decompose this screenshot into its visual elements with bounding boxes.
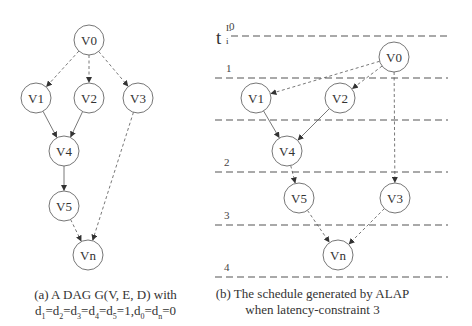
caption-text: =d [45,303,59,318]
axis-t-symbol: t [216,27,222,48]
node-label: V5 [291,191,307,206]
level-label-3: 3 [224,209,230,221]
node-label: V1 [28,91,44,106]
a-edge-v2-v4 [71,112,83,137]
b-edge-v0-v2 [352,66,382,89]
panel-b-nodes: V0V1V2V4V5V3Vn [241,42,410,270]
caption-text: =1,d [117,303,141,318]
a-edge-v0-v1 [46,51,78,86]
node-label: Vn [330,248,346,263]
diagram-canvas: V0V1V2V3V4V5Vn t L i 01234 V0V1V2V4V5V3V… [0,0,472,326]
node-label: V4 [56,144,72,159]
a-edge-v3-vn [93,112,134,240]
caption-b: (b) The schedule generated by ALAP when … [205,286,420,318]
level-label-1: 1 [226,62,232,74]
schedule-levels: 01234 [215,20,448,277]
b-edge-v0-v3 [394,72,395,183]
a-node-v2: V2 [74,83,104,113]
a-node-v3: V3 [123,83,153,113]
b-node-v4: V4 [272,136,302,166]
a-edge-v0-v3 [99,51,128,86]
caption-text: =d [144,303,158,318]
b-node-v3: V3 [380,183,410,213]
b-edge-v1-v4 [264,111,280,138]
node-label: V4 [279,144,295,159]
b-node-v1: V1 [241,83,271,113]
b-node-v2: V2 [325,83,355,113]
a-edge-v5-vn [71,219,82,241]
node-label: V0 [81,33,97,48]
caption-a: (a) A DAG G(V, E, D) with d1=d2=d3=d4=d5… [18,287,193,325]
caption-a-line1: (a) A DAG G(V, E, D) with [18,287,193,303]
level-label-4: 4 [224,261,230,273]
b-node-v5: V5 [284,183,314,213]
b-edge-v5-vn [307,210,329,242]
axis-subscript: i [226,36,229,46]
a-edge-v1-v4 [43,111,57,137]
b-node-vn: Vn [323,240,353,270]
b-edge-v2-v4 [298,109,329,140]
node-label: V2 [332,91,348,106]
panel-a-dag: V0V1V2V3V4V5Vn [21,25,153,270]
node-label: Vn [80,248,96,263]
a-node-v0: V0 [74,25,104,55]
a-node-v5: V5 [49,191,79,221]
panel-b-schedule: t L i 01234 V0V1V2V4V5V3Vn [215,20,448,277]
b-edge-v3-vn [349,209,384,244]
level-label-2: 2 [224,156,230,168]
caption-b-line1: (b) The schedule generated by ALAP [205,286,420,302]
caption-text: =d [63,303,77,318]
node-label: V1 [248,91,264,106]
caption-text: =0 [162,303,176,318]
a-node-vn: Vn [73,240,103,270]
node-label: V5 [56,199,72,214]
b-node-v0: V0 [379,42,409,72]
node-label: V0 [386,50,402,65]
caption-b-line2: when latency-constraint 3 [205,302,420,318]
panel-a-nodes: V0V1V2V3V4V5Vn [21,25,153,270]
caption-text: =d [81,303,95,318]
level-label-0: 0 [229,20,235,32]
a-node-v1: V1 [21,83,51,113]
b-edge-v4-v5 [291,166,295,183]
caption-text: =d [99,303,113,318]
node-label: V3 [387,191,403,206]
a-node-v4: V4 [49,136,79,166]
node-label: V3 [130,91,146,106]
caption-a-line2: d1=d2=d3=d4=d5=1,d0=dn=0 [18,303,193,325]
node-label: V2 [81,91,97,106]
